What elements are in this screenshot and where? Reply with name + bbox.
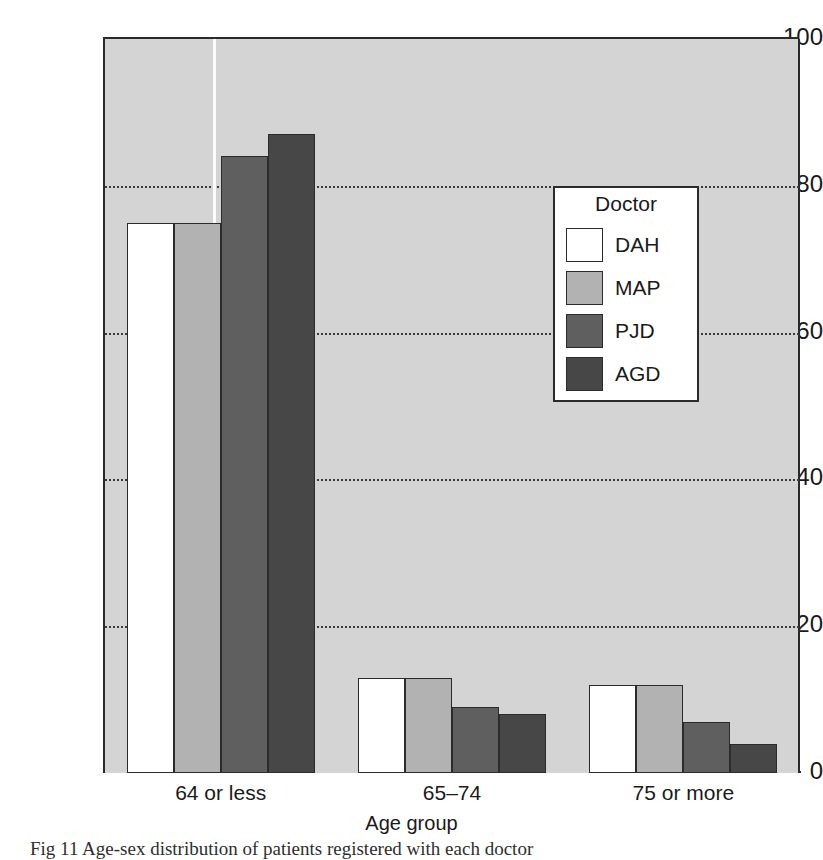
plot-right-border bbox=[798, 39, 800, 773]
legend-swatch bbox=[566, 314, 603, 348]
legend-entry: MAP bbox=[566, 269, 692, 307]
legend-swatch bbox=[566, 228, 603, 262]
x-axis-title: Age group bbox=[0, 812, 823, 835]
bar bbox=[499, 714, 546, 773]
legend-label: PJD bbox=[615, 319, 655, 343]
bar bbox=[405, 678, 452, 773]
bar bbox=[636, 685, 683, 773]
legend-title: Doctor bbox=[555, 192, 697, 216]
x-tick-label: 64 or less bbox=[175, 781, 266, 805]
bar bbox=[683, 722, 730, 773]
legend-entry: AGD bbox=[566, 355, 692, 393]
bar bbox=[174, 223, 221, 774]
x-tick-label: 75 or more bbox=[633, 781, 735, 805]
bar bbox=[589, 685, 636, 773]
figure-caption: Fig 11 Age-sex distribution of patients … bbox=[30, 838, 800, 860]
legend-swatch bbox=[566, 271, 603, 305]
legend-label: MAP bbox=[615, 276, 661, 300]
legend-entry: PJD bbox=[566, 312, 692, 350]
legend-entry: DAH bbox=[566, 226, 692, 264]
legend-label: DAH bbox=[615, 233, 659, 257]
legend-swatch bbox=[566, 357, 603, 391]
bar bbox=[452, 707, 499, 773]
bar bbox=[127, 223, 174, 774]
bar bbox=[730, 744, 777, 773]
bar bbox=[268, 134, 315, 773]
legend-label: AGD bbox=[615, 362, 661, 386]
plot-area bbox=[105, 37, 799, 773]
bar bbox=[221, 156, 268, 773]
x-tick-label: 65–74 bbox=[423, 781, 481, 805]
legend: Doctor DAHMAPPJDAGD bbox=[553, 186, 699, 402]
bar bbox=[358, 678, 405, 773]
